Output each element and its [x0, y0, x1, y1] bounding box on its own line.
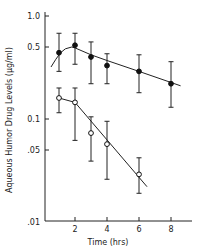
open-data-point [137, 172, 142, 177]
axes [45, 12, 192, 221]
error-bars [57, 33, 174, 193]
y-tick-label: 1.0 [27, 12, 40, 21]
y-tick-label: 0.5 [27, 43, 40, 52]
fit-line-filled [51, 47, 181, 86]
fit-line-open [59, 98, 147, 187]
x-axis-title: Time (hrs) [87, 238, 129, 247]
filled-data-point [169, 81, 174, 86]
y-tick-label: 0.1 [27, 115, 40, 124]
y-axis-title: Aqueous Humor Drug Levels (µg/ml) [5, 47, 14, 193]
fit-lines [51, 47, 181, 187]
chart: 1.00.50.1.05.01 2468 Time (hrs) Aqueous … [0, 0, 197, 251]
y-ticks: 1.00.50.1.05.01 [27, 12, 49, 227]
open-data-point [105, 142, 110, 147]
filled-data-point [137, 69, 142, 74]
x-tick-label: 4 [104, 225, 109, 234]
x-tick-label: 8 [168, 225, 173, 234]
filled-data-point [57, 50, 62, 55]
x-tick-label: 6 [136, 225, 141, 234]
x-tick-label: 2 [72, 225, 77, 234]
open-data-point [57, 96, 62, 101]
x-ticks: 2468 [72, 217, 173, 234]
y-tick-label: .05 [27, 146, 40, 155]
open-data-point [89, 131, 94, 136]
filled-data-point [105, 63, 110, 68]
filled-data-point [89, 55, 94, 60]
y-tick-label: .01 [27, 218, 40, 227]
open-data-point [73, 100, 78, 105]
filled-data-point [73, 43, 78, 48]
